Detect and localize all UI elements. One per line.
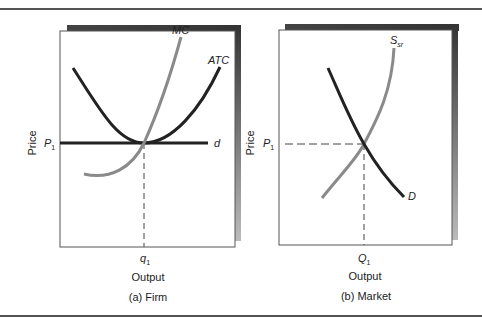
q1-label: Q1 — [358, 252, 371, 266]
x-axis-label: Output — [131, 271, 164, 283]
diagram-canvas: MC ATC d P1 q1 Price Output (a) Firm Ssr… — [0, 0, 482, 325]
x-axis-label: Output — [348, 270, 381, 282]
d-label: D — [408, 190, 416, 202]
panel-shadow-right — [452, 24, 458, 240]
panel-market: Ssr D P1 Q1 Price Output (b) Market — [244, 24, 459, 302]
y-axis-label: Price — [26, 130, 38, 155]
p1-label: P1 — [44, 137, 55, 151]
q1-label: q1 — [140, 252, 150, 266]
mc-label: MC — [172, 24, 189, 36]
p1-label: P1 — [263, 137, 274, 151]
plot-frame — [279, 30, 452, 245]
atc-label: ATC — [207, 54, 229, 66]
panel-shadow-right — [235, 25, 241, 241]
panel-caption: (b) Market — [341, 290, 391, 302]
y-axis-label: Price — [244, 130, 256, 155]
panel-caption: (a) Firm — [129, 291, 168, 303]
panel-firm: MC ATC d P1 q1 Price Output (a) Firm — [26, 24, 241, 303]
d-label: d — [214, 137, 221, 149]
